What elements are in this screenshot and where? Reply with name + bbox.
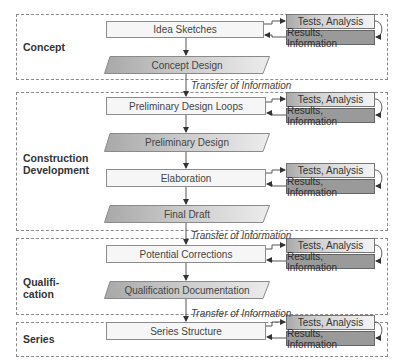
output-preliminary-design: Preliminary Design xyxy=(104,133,270,152)
output-final-draft-label: Final Draft xyxy=(164,209,210,220)
results-information-box: Results, Information xyxy=(286,179,375,194)
step-idea-sketches: Idea Sketches xyxy=(106,21,264,38)
output-qualification-documentation-label: Qualification Documentation xyxy=(124,285,249,296)
step-preliminary-design-loops: Preliminary Design Loops xyxy=(106,97,266,115)
output-concept-design: Concept Design xyxy=(104,56,270,74)
step-potential-corrections: Potential Corrections xyxy=(106,245,266,263)
step-elaboration: Elaboration xyxy=(106,169,266,187)
results-information-box: Results, Information xyxy=(286,30,375,45)
phase-label-qualification: Qualifi- cation xyxy=(23,264,59,300)
output-qualification-documentation: Qualification Documentation xyxy=(104,281,270,299)
phase-label-qualification-text: Qualifi- cation xyxy=(23,276,59,300)
transfer-label: Transfer of Information xyxy=(191,80,291,91)
results-information-box: Results, Information xyxy=(286,331,375,346)
transfer-label: Transfer of Information xyxy=(191,308,291,319)
transfer-label: Transfer of Information xyxy=(191,230,291,241)
phase-label-series: Series xyxy=(23,333,55,345)
phase-label-construction: Construction Development xyxy=(23,152,93,176)
output-preliminary-design-label: Preliminary Design xyxy=(145,137,229,148)
results-information-box: Results, Information xyxy=(286,108,375,123)
phase-label-concept: Concept xyxy=(23,41,65,53)
results-information-box: Results, Information xyxy=(286,254,375,269)
output-concept-design-label: Concept Design xyxy=(151,60,222,71)
phase-label-construction-text: Construction Development xyxy=(23,152,93,176)
step-series-structure: Series Structure xyxy=(106,322,266,340)
output-final-draft: Final Draft xyxy=(104,205,270,223)
